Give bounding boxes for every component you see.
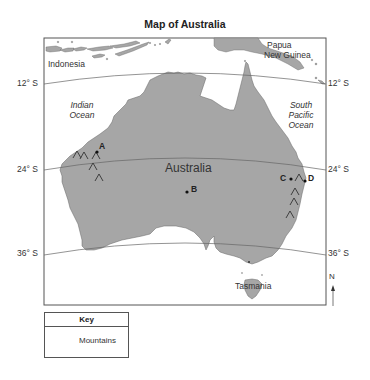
lat-12-left-label: 12° S — [17, 78, 38, 88]
indonesia-islands — [46, 39, 171, 60]
island-dot — [261, 274, 263, 276]
key-heading: Key — [45, 313, 128, 327]
key-body: Mountains — [45, 327, 128, 357]
north-arrow-icon — [331, 285, 335, 306]
papua-new-guinea-label: Papua New Guinea — [264, 40, 324, 60]
indian-ocean-label: Indian Ocean — [62, 100, 102, 120]
papua-label-line1: Papua — [264, 40, 324, 50]
lat-36-right-label: 36° S — [328, 248, 349, 258]
lat-12-right-label: 12° S — [328, 78, 349, 88]
island-dot — [248, 261, 250, 263]
lat-36-left-label: 36° S — [17, 248, 38, 258]
indian-ocean-line2: Ocean — [62, 110, 102, 120]
point-c-label: C — [280, 173, 286, 183]
point-c-marker — [289, 177, 292, 180]
map-key: Key Mountains — [44, 312, 129, 358]
point-d-marker — [303, 179, 306, 182]
lat-24-right-label: 24° S — [328, 164, 349, 174]
indonesia-label: Indonesia — [48, 59, 85, 69]
south-pacific-ocean-label: South Pacific Ocean — [280, 100, 322, 130]
pacific-ocean-line1: South — [280, 100, 322, 110]
pacific-ocean-line2: Pacific — [280, 110, 322, 120]
north-label: N — [329, 272, 335, 281]
point-b-label: B — [191, 184, 197, 194]
point-a-label: A — [99, 141, 105, 151]
island-dot — [241, 272, 243, 274]
indian-ocean-line1: Indian — [62, 100, 102, 110]
lat-24-left-label: 24° S — [17, 164, 38, 174]
point-d-label: D — [308, 173, 314, 183]
key-mountains-label: Mountains — [79, 336, 116, 345]
point-b-marker — [185, 190, 188, 193]
tasmania-label: Tasmania — [235, 281, 271, 291]
pacific-ocean-line3: Ocean — [280, 120, 322, 130]
australia-label: Australia — [165, 161, 212, 175]
papua-label-line2: New Guinea — [264, 50, 324, 60]
